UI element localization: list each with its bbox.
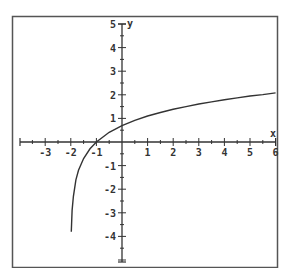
y-tick-label: 3 <box>110 66 116 77</box>
tick-labels: -3-2-1123456-4-3-2-112345 <box>39 19 278 242</box>
y-tick-label: 1 <box>110 113 116 124</box>
x-tick-label: 6 <box>273 147 279 158</box>
x-tick-label: 4 <box>221 147 227 158</box>
x-tick-label: -1 <box>90 147 102 158</box>
x-axis-label: x <box>270 128 276 139</box>
x-tick-label: 3 <box>196 147 202 158</box>
x-tick-label: -3 <box>39 147 51 158</box>
x-tick-label: 5 <box>247 147 253 158</box>
y-tick-label: 4 <box>110 43 116 54</box>
y-tick-label: 5 <box>110 19 116 30</box>
y-tick-label: -2 <box>104 184 116 195</box>
y-tick-label: -1 <box>104 161 116 172</box>
y-tick-label: 2 <box>110 90 116 101</box>
y-axis-label: y <box>127 18 133 29</box>
function-graph: -3-2-1123456-4-3-2-112345 x y <box>0 0 283 268</box>
y-tick-label: -4 <box>104 231 116 242</box>
x-tick-label: 2 <box>170 147 176 158</box>
y-tick-label: -3 <box>104 208 116 219</box>
x-tick-label: -2 <box>65 147 77 158</box>
x-tick-label: 1 <box>145 147 151 158</box>
function-curve <box>71 93 275 232</box>
